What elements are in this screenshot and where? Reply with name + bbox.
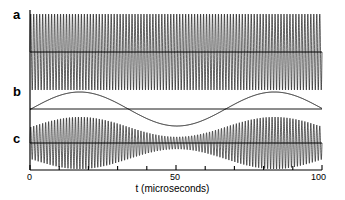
plot-canvas <box>0 0 345 200</box>
panel-label-c: c <box>13 132 20 145</box>
waveform-traces <box>30 14 322 169</box>
x-tick-label-50: 50 <box>170 173 180 182</box>
panel-label-b: b <box>13 85 21 98</box>
panel-label-a: a <box>13 8 20 21</box>
waveform-figure: a b c 0 50 100 t (microseconds) <box>0 0 345 200</box>
x-tick-label-100: 100 <box>311 173 326 182</box>
x-tick-label-0: 0 <box>27 173 32 182</box>
x-axis-title: t (microseconds) <box>0 184 345 194</box>
